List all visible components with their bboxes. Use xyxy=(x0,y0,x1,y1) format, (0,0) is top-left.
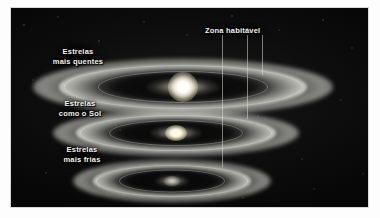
system-cool-stars xyxy=(73,160,271,202)
orbit-outer xyxy=(80,115,272,151)
hz-line-outer xyxy=(262,35,263,75)
dust-halo xyxy=(33,59,333,115)
habitable-zone-label: Zona habitável xyxy=(205,26,260,35)
dust-ring-bright xyxy=(93,164,251,198)
system-sun-like-stars xyxy=(53,110,299,156)
dust-halo xyxy=(73,160,271,202)
central-star xyxy=(165,125,187,141)
dust-gap xyxy=(108,73,258,101)
system-hot-stars xyxy=(33,59,333,115)
orbit-outer xyxy=(96,165,248,197)
habitable-zone-figure: Zona habitável Estrelas mais quentes Est… xyxy=(0,0,380,218)
space-background: Zona habitável Estrelas mais quentes Est… xyxy=(11,8,368,207)
dust-inner xyxy=(155,175,189,187)
dust-ring-bright xyxy=(76,114,276,152)
orbit-inner xyxy=(98,71,268,103)
orbit-outer xyxy=(64,65,302,109)
dust-inner xyxy=(150,126,202,141)
dust-inner xyxy=(146,77,220,97)
dust-halo xyxy=(53,110,299,156)
dust-ring-bright xyxy=(59,64,307,110)
central-star xyxy=(168,72,198,102)
orbit-inner xyxy=(119,170,225,193)
hz-line-inner xyxy=(222,35,223,167)
central-star xyxy=(164,176,180,187)
hz-line-middle xyxy=(247,35,248,119)
dust-gap xyxy=(117,122,235,144)
dust-gap xyxy=(126,171,218,191)
